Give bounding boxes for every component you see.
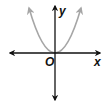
- parabola-graph: [0, 0, 105, 106]
- origin-label: O: [45, 56, 54, 68]
- y-axis-label: y: [59, 5, 66, 17]
- x-axis-label: x: [94, 56, 101, 68]
